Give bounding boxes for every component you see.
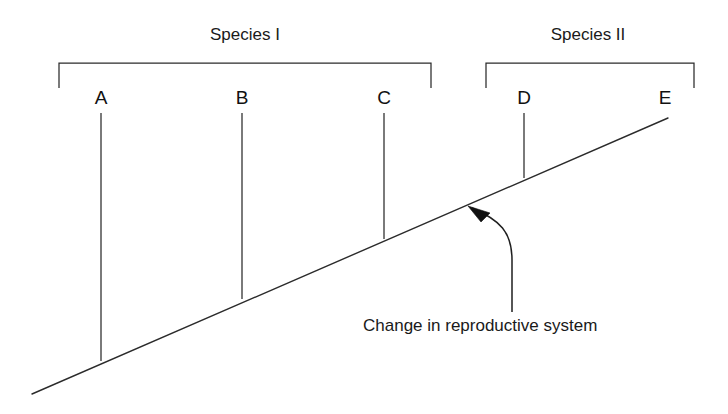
species-2-bracket-group bbox=[486, 63, 694, 88]
point-e-group: E bbox=[659, 87, 672, 108]
point-d-label: D bbox=[517, 87, 531, 108]
annotation-label: Change in reproductive system bbox=[363, 316, 597, 335]
point-b-group: B bbox=[236, 87, 249, 299]
point-e-label: E bbox=[659, 87, 672, 108]
time-axis-line bbox=[32, 118, 668, 394]
point-b-label: B bbox=[236, 87, 249, 108]
species-1-label: Species I bbox=[210, 25, 280, 44]
annotation-leader-group bbox=[468, 206, 512, 312]
point-c-label: C bbox=[377, 87, 391, 108]
species-2-bracket bbox=[486, 63, 694, 88]
point-a-label: A bbox=[95, 87, 108, 108]
species-1-bracket bbox=[59, 63, 431, 88]
annotation-arrowhead-icon bbox=[468, 206, 490, 222]
species-2-label: Species II bbox=[551, 25, 626, 44]
point-a-group: A bbox=[95, 87, 108, 361]
annotation-leader-curve bbox=[472, 208, 512, 312]
species-1-bracket-group bbox=[59, 63, 431, 88]
point-c-group: C bbox=[377, 87, 391, 239]
diagram-canvas: Species I Species II A B C D E bbox=[0, 0, 728, 414]
speciation-diagram: Species I Species II A B C D E bbox=[0, 0, 728, 414]
point-d-group: D bbox=[517, 87, 531, 178]
